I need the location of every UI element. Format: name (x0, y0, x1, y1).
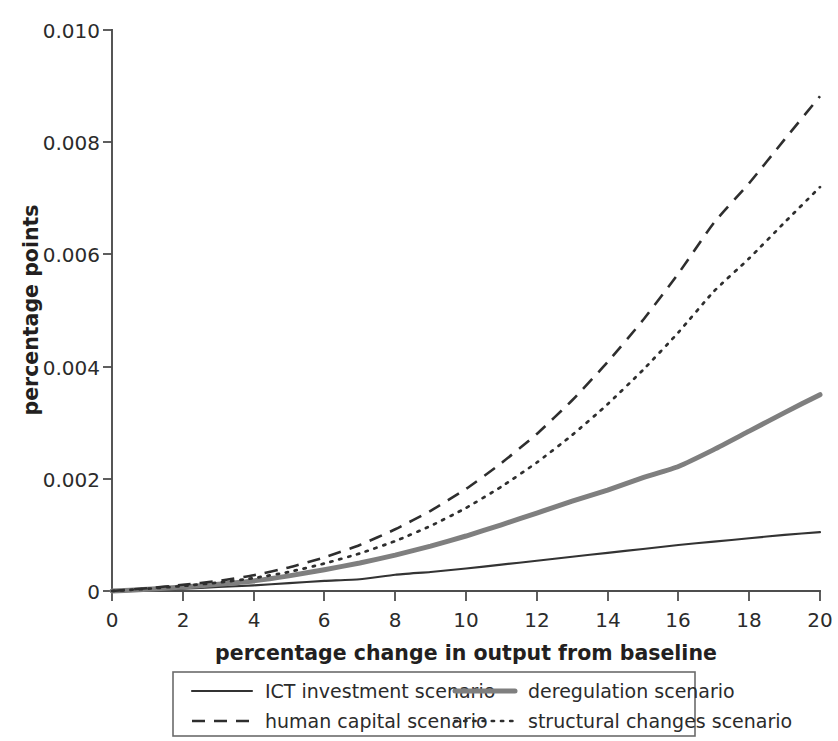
x-tick-label: 6 (318, 608, 331, 632)
y-axis-title: percentage points (19, 204, 43, 415)
series-line-deregulation-scenario (112, 395, 820, 591)
y-tick-label: 0.004 (43, 356, 100, 380)
x-tick-label: 10 (453, 608, 478, 632)
y-tick-label: 0.002 (43, 468, 100, 492)
y-tick-label: 0.010 (43, 19, 100, 43)
x-tick-label: 14 (595, 608, 620, 632)
line-chart: percentage points 0.010 0.008 0.006 0.00… (0, 0, 838, 741)
x-tick-label: 12 (524, 608, 549, 632)
x-tick-label: 4 (248, 608, 261, 632)
series-line-structural-changes-scenario (112, 187, 820, 591)
y-tick-marks (103, 30, 112, 591)
chart-figure: percentage points 0.010 0.008 0.006 0.00… (0, 0, 838, 741)
x-tick-marks (112, 591, 820, 601)
x-tick-label: 20 (807, 608, 832, 632)
x-tick-label: 2 (177, 608, 190, 632)
series-line-human-capital-scenario (112, 96, 820, 591)
x-tick-label: 18 (736, 608, 761, 632)
chart-legend: ICT investment scenario deregulation sce… (173, 672, 792, 736)
legend-label-deregulation-scenario: deregulation scenario (528, 680, 735, 702)
x-tick-label: 16 (665, 608, 690, 632)
y-tick-label: 0.006 (43, 243, 100, 267)
x-axis-title: percentage change in output from baselin… (215, 641, 717, 665)
x-tick-label: 0 (106, 608, 119, 632)
y-tick-labels: 0.010 0.008 0.006 0.004 0.002 0 (43, 19, 100, 604)
x-tick-label: 8 (389, 608, 402, 632)
x-tick-labels: 0 2 4 6 8 10 12 14 16 18 20 (106, 608, 833, 632)
legend-label-structural-changes-scenario: structural changes scenario (528, 710, 792, 732)
series-group (112, 96, 820, 591)
y-tick-label: 0 (87, 580, 100, 604)
y-tick-label: 0.008 (43, 131, 100, 155)
